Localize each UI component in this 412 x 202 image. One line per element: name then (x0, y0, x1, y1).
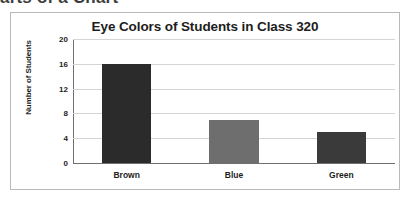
y-axis-tick-label: 16 (59, 59, 68, 68)
gridline (73, 163, 395, 164)
bar-blue[interactable] (209, 120, 258, 163)
x-axis-tick-label: Blue (225, 170, 243, 180)
chart-title: Eye Colors of Students in Class 320 (11, 19, 399, 34)
gridline (73, 39, 395, 40)
y-axis-title: Number of Students (24, 28, 33, 128)
y-axis-tick-label: 20 (59, 35, 68, 44)
y-axis-tick-label: 4 (64, 134, 68, 143)
chart-frame: Eye Colors of Students in Class 320 Numb… (10, 12, 400, 190)
bar-green[interactable] (317, 132, 366, 163)
x-axis-tick-label: Green (329, 170, 354, 180)
bar-brown[interactable] (102, 64, 151, 163)
y-axis-tick-label: 12 (59, 84, 68, 93)
y-axis-tick-label: 0 (64, 159, 68, 168)
y-axis-tick-label: 8 (64, 109, 68, 118)
plot-area: 201612840 BrownBlueGreen (73, 39, 395, 163)
page-heading-partial: arts of a Chart (0, 0, 200, 10)
y-axis-line (73, 39, 74, 163)
x-axis-tick-label: Brown (113, 170, 139, 180)
